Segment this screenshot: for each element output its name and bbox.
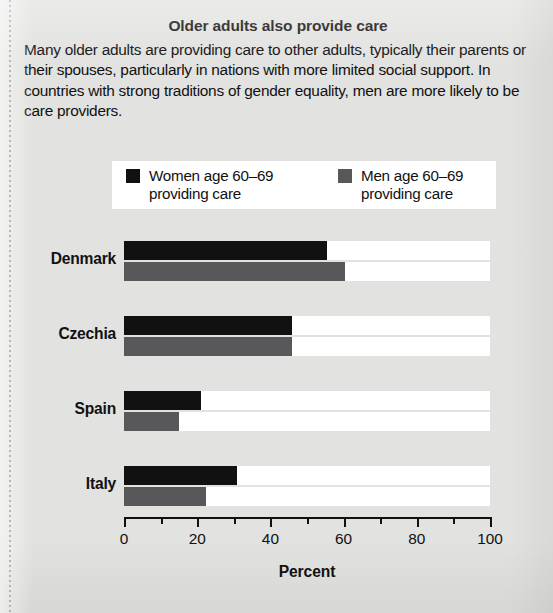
axis-tick-40: [270, 517, 272, 527]
legend-item-men: Men age 60–69 providing care: [338, 167, 463, 202]
legend-swatch-women-icon: [126, 169, 140, 183]
axis-tick-label-100: 100: [477, 530, 503, 548]
bar-group: Spain: [22, 388, 542, 436]
axis-tick-60: [344, 517, 346, 527]
category-label-denmark: Denmark: [22, 250, 116, 268]
bar-track-men: [124, 412, 490, 431]
axis-tick-label-40: 40: [262, 530, 279, 548]
bar-chart: DenmarkCzechiaSpainItaly: [22, 222, 542, 522]
bar-track-men: [124, 262, 490, 281]
bar-men-czechia: [124, 337, 292, 356]
axis-tick-label-80: 80: [408, 530, 425, 548]
bar-men-spain: [124, 412, 179, 431]
axis-tick-100: [490, 517, 492, 527]
description-paragraph: Many older adults are providing care to …: [22, 40, 542, 121]
bar-women-italy: [124, 466, 237, 485]
axis-tick-label-0: 0: [120, 530, 129, 548]
axis-tick-70: [380, 517, 382, 524]
axis-tick-10: [161, 517, 163, 524]
axis-tick-30: [234, 517, 236, 524]
chart-legend: Women age 60–69 providing care Men age 6…: [112, 161, 496, 209]
bar-track-men: [124, 337, 490, 356]
x-axis: 020406080100: [124, 517, 490, 518]
bar-women-spain: [124, 391, 201, 410]
legend-item-women: Women age 60–69 providing care: [126, 167, 338, 202]
bar-group: Italy: [22, 463, 542, 511]
legend-label-men-line2: providing care: [361, 185, 453, 202]
bar-women-denmark: [124, 241, 327, 260]
axis-tick-80: [417, 517, 419, 527]
bar-track-women: [124, 466, 490, 485]
category-label-spain: Spain: [22, 400, 116, 418]
axis-tick-50: [307, 517, 309, 524]
bar-group: Czechia: [22, 313, 542, 361]
axis-tick-label-60: 60: [335, 530, 352, 548]
legend-label-men-line1: Men age 60–69: [361, 167, 463, 184]
legend-label-women-line1: Women age 60–69: [149, 167, 273, 184]
legend-label-women: Women age 60–69 providing care: [149, 167, 273, 202]
axis-tick-90: [453, 517, 455, 524]
legend-label-women-line2: providing care: [149, 185, 241, 202]
category-label-czechia: Czechia: [22, 325, 116, 343]
bar-group: Denmark: [22, 238, 542, 286]
page-title: Older adults also provide care: [22, 0, 542, 35]
x-axis-title: Percent: [124, 563, 490, 581]
legend-label-men: Men age 60–69 providing care: [361, 167, 463, 202]
axis-tick-20: [197, 517, 199, 527]
axis-tick-label-20: 20: [189, 530, 206, 548]
left-dotted-rule: [9, 0, 11, 613]
bar-track-women: [124, 241, 490, 260]
axis-tick-0: [124, 517, 126, 527]
legend-swatch-men-icon: [338, 169, 352, 183]
bar-track-women: [124, 391, 490, 410]
bar-track-women: [124, 316, 490, 335]
bar-track-men: [124, 487, 490, 506]
bar-women-czechia: [124, 316, 292, 335]
category-label-italy: Italy: [22, 475, 116, 493]
bar-men-denmark: [124, 262, 345, 281]
figure-content: Older adults also provide care Many olde…: [22, 0, 542, 613]
bar-men-italy: [124, 487, 206, 506]
